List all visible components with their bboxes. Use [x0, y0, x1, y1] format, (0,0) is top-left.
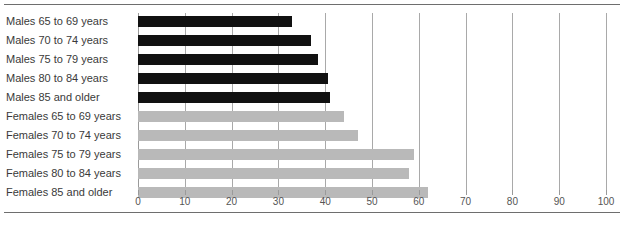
bar-row	[138, 108, 606, 127]
bar-row	[138, 32, 606, 51]
tick-mark-70	[466, 190, 467, 195]
bar	[138, 35, 311, 46]
bar-row	[138, 13, 606, 32]
top-rule	[4, 4, 620, 5]
tick-mark-40	[325, 190, 326, 195]
tick-mark-0	[138, 190, 139, 195]
x-tick-label: 30	[273, 196, 284, 207]
x-tick-label: 10	[179, 196, 190, 207]
x-tick-label: 60	[413, 196, 424, 207]
x-tick-label: 40	[320, 196, 331, 207]
tick-mark-80	[512, 190, 513, 195]
category-label: Females 80 to 84 years	[6, 167, 121, 179]
tick-mark-20	[232, 190, 233, 195]
category-label: Females 70 to 74 years	[6, 129, 121, 141]
bar-row	[138, 89, 606, 108]
bar-row	[138, 51, 606, 70]
bar-row	[138, 146, 606, 165]
bar	[138, 16, 292, 27]
bar	[138, 168, 409, 179]
category-label: Males 80 to 84 years	[6, 72, 108, 84]
category-label: Females 65 to 69 years	[6, 110, 121, 122]
x-tick-label: 90	[554, 196, 565, 207]
bar-row	[138, 165, 606, 184]
tick-mark-60	[419, 190, 420, 195]
bar-row	[138, 127, 606, 146]
x-tick-label: 20	[226, 196, 237, 207]
bar	[138, 73, 328, 84]
bar-chart-figure: Males 65 to 69 yearsMales 70 to 74 years…	[0, 0, 624, 227]
x-tick-label: 50	[366, 196, 377, 207]
bar	[138, 54, 318, 65]
tick-mark-90	[559, 190, 560, 195]
category-label: Males 85 and older	[6, 91, 100, 103]
x-tick-label: 100	[598, 196, 615, 207]
plot-area	[138, 13, 606, 190]
category-label: Females 85 and older	[6, 186, 112, 198]
bottom-rule	[4, 212, 620, 213]
category-label-column: Males 65 to 69 yearsMales 70 to 74 years…	[0, 13, 128, 190]
bar-row	[138, 70, 606, 89]
tick-mark-30	[278, 190, 279, 195]
x-tick-label: 0	[135, 196, 141, 207]
category-label: Females 75 to 79 years	[6, 148, 121, 160]
bar	[138, 149, 414, 160]
bar-rows	[138, 13, 606, 190]
gridline-100	[606, 13, 607, 190]
category-label: Males 65 to 69 years	[6, 15, 108, 27]
bar	[138, 92, 330, 103]
tick-mark-50	[372, 190, 373, 195]
tick-mark-100	[606, 190, 607, 195]
x-axis: 0102030405060708090100	[138, 190, 606, 206]
x-tick-label: 70	[460, 196, 471, 207]
category-label: Males 75 to 79 years	[6, 53, 108, 65]
category-label: Males 70 to 74 years	[6, 34, 108, 46]
tick-mark-10	[185, 190, 186, 195]
bar	[138, 111, 344, 122]
bar	[138, 130, 358, 141]
x-tick-label: 80	[507, 196, 518, 207]
